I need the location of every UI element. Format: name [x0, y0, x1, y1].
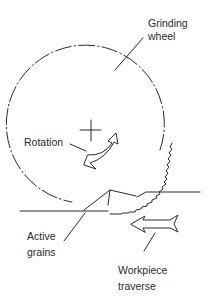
- label-grinding-wheel-line1: Grinding: [148, 17, 188, 30]
- rotation-arrow-icon: [84, 133, 118, 169]
- label-workpiece-line2: traverse: [118, 278, 167, 294]
- chip-vertical: [108, 190, 110, 205]
- label-active-grains: Active grains: [27, 228, 56, 260]
- label-grinding-wheel: Grinding wheel: [148, 17, 188, 43]
- leader-active-grains: [64, 213, 85, 241]
- leader-grinding-wheel: [115, 38, 143, 70]
- grinding-wheel-outline: [6, 45, 164, 202]
- workpiece-surface-right: [137, 192, 200, 197]
- label-rotation: Rotation: [24, 136, 63, 149]
- leader-workpiece: [144, 233, 155, 251]
- leader-rotation: [70, 144, 86, 151]
- label-workpiece-line1: Workpiece: [118, 262, 167, 278]
- label-active-grains-line1: Active: [27, 228, 56, 244]
- label-workpiece-traverse: Workpiece traverse: [118, 262, 167, 294]
- traverse-arrow-icon: [131, 215, 178, 232]
- label-active-grains-line2: grains: [27, 244, 56, 260]
- label-rotation-text: Rotation: [24, 136, 63, 148]
- label-grinding-wheel-line2: wheel: [148, 30, 188, 43]
- wheel-grain-edge: [110, 143, 172, 214]
